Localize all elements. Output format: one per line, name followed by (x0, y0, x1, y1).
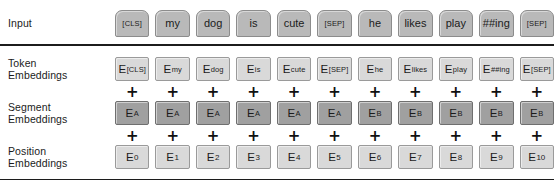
position-embedding-box[interactable]: E6 (358, 145, 392, 169)
position-embedding-box[interactable]: E7 (398, 145, 432, 169)
embedding-base: E (450, 151, 458, 163)
token-embedding-box[interactable]: E##ing (479, 57, 513, 81)
embedding-subscript: B (538, 109, 543, 118)
plus-icon: + (115, 86, 149, 98)
embedding-subscript: he (375, 65, 384, 74)
embedding-subscript: likes (412, 65, 428, 74)
plus-operator-row-2: + + + + + + + + + + + (0, 129, 554, 143)
token-embedding-box[interactable]: Ecute (277, 57, 311, 81)
input-token[interactable]: is (236, 10, 270, 37)
plus-icon: + (479, 130, 513, 142)
embedding-subscript: is (255, 65, 261, 74)
plus-icon: + (398, 130, 432, 142)
plus-icon: + (520, 130, 554, 142)
embedding-base: E (490, 107, 498, 119)
segment-embedding-box[interactable]: EB (358, 101, 392, 125)
embedding-subscript: 6 (377, 153, 381, 162)
plus-icon: + (358, 130, 392, 142)
token-embedding-box[interactable]: Elikes (398, 57, 432, 81)
embedding-base: E (368, 107, 376, 119)
token-embedding-box[interactable]: Eis (236, 57, 270, 81)
position-embedding-box[interactable]: E1 (155, 145, 189, 169)
embedding-subscript: A (134, 109, 139, 118)
bert-input-representation-diagram: Input [CLS] my dog is cute [SEP] he like… (0, 0, 554, 186)
input-token[interactable]: [SEP] (520, 10, 554, 37)
input-token-text: [CLS] (122, 19, 142, 28)
input-token[interactable]: play (439, 10, 473, 37)
segment-embedding-box[interactable]: EA (317, 101, 351, 125)
segment-embedding-box[interactable]: EB (439, 101, 473, 125)
embedding-subscript: A (255, 109, 260, 118)
embedding-subscript: 1 (175, 153, 179, 162)
embedding-subscript: ##ing (491, 65, 510, 74)
input-token[interactable]: dog (196, 10, 230, 37)
position-embedding-box[interactable]: E4 (277, 145, 311, 169)
embedding-base: E (126, 151, 134, 163)
position-embedding-box[interactable]: E3 (236, 145, 270, 169)
embedding-base: E (328, 107, 336, 119)
plus-icon: + (155, 86, 189, 98)
plus-icon: + (277, 130, 311, 142)
position-embedding-box[interactable]: E9 (479, 145, 513, 169)
embedding-subscript: 8 (458, 153, 462, 162)
position-embedding-box[interactable]: E8 (439, 145, 473, 169)
input-token[interactable]: he (358, 10, 392, 37)
position-embedding-box[interactable]: E5 (317, 145, 351, 169)
token-embedding-box[interactable]: E[SEP] (520, 57, 554, 81)
position-embedding-box[interactable]: E0 (115, 145, 149, 169)
embedding-subscript: 7 (417, 153, 421, 162)
embedding-subscript: 10 (536, 153, 545, 162)
embedding-base: E (369, 151, 377, 163)
embedding-base: E (166, 107, 174, 119)
embedding-base: E (203, 63, 211, 75)
token-embeddings-row: Token Embeddings E[CLS] Emy Edog Eis Ecu… (0, 56, 554, 82)
input-token[interactable]: likes (398, 10, 432, 37)
plus-icon: + (317, 130, 351, 142)
segment-embedding-box[interactable]: EB (479, 101, 513, 125)
token-embedding-box[interactable]: E[SEP] (317, 57, 351, 81)
embedding-base: E (328, 151, 336, 163)
segment-embedding-box[interactable]: EA (236, 101, 270, 125)
plus-icon: + (358, 86, 392, 98)
input-token[interactable]: cute (277, 10, 311, 37)
segment-embedding-box[interactable]: EB (520, 101, 554, 125)
token-embedding-box[interactable]: Ehe (358, 57, 392, 81)
token-embedding-box[interactable]: Eplay (439, 57, 473, 81)
input-token[interactable]: ##ing (479, 10, 513, 37)
segment-embedding-box[interactable]: EA (277, 101, 311, 125)
token-embedding-box[interactable]: E[CLS] (115, 57, 149, 81)
input-token-text: my (165, 17, 180, 29)
embedding-base: E (247, 151, 255, 163)
position-embedding-box[interactable]: E10 (520, 145, 554, 169)
token-embeddings-label: Token Embeddings (0, 57, 115, 82)
input-token[interactable]: [SEP] (317, 10, 351, 37)
embedding-subscript: my (172, 65, 182, 74)
embedding-base: E (119, 63, 127, 75)
position-embedding-box[interactable]: E2 (196, 145, 230, 169)
token-embedding-box[interactable]: Edog (196, 57, 230, 81)
embedding-base: E (247, 107, 255, 119)
segment-embeddings-label: Segment Embeddings (0, 101, 115, 126)
input-row: Input [CLS] my dog is cute [SEP] he like… (0, 9, 554, 37)
plus-row-1-list: + + + + + + + + + + + (115, 86, 554, 98)
input-token-text: cute (284, 17, 305, 29)
input-token[interactable]: [CLS] (115, 10, 149, 37)
embedding-subscript: A (336, 109, 341, 118)
embedding-subscript: B (417, 109, 422, 118)
embedding-base: E (409, 107, 417, 119)
segment-embedding-box[interactable]: EA (115, 101, 149, 125)
embedding-subscript: A (174, 109, 179, 118)
token-embedding-box[interactable]: Emy (155, 57, 189, 81)
segment-embedding-box[interactable]: EA (155, 101, 189, 125)
embedding-base: E (163, 63, 171, 75)
embedding-subscript: 3 (255, 153, 259, 162)
embedding-subscript: [SEP] (329, 65, 349, 74)
input-token[interactable]: my (155, 10, 189, 37)
position-embeddings-row: Position Embeddings E0 E1 E2 E3 E4 E5 E6… (0, 144, 554, 170)
segment-embedding-box[interactable]: EB (398, 101, 432, 125)
embedding-base: E (490, 151, 498, 163)
position-embeddings-list: E0 E1 E2 E3 E4 E5 E6 E7 E8 E9 E10 (115, 145, 554, 169)
segment-embedding-box[interactable]: EA (196, 101, 230, 125)
embedding-subscript: 0 (134, 153, 138, 162)
embedding-subscript: 4 (296, 153, 300, 162)
